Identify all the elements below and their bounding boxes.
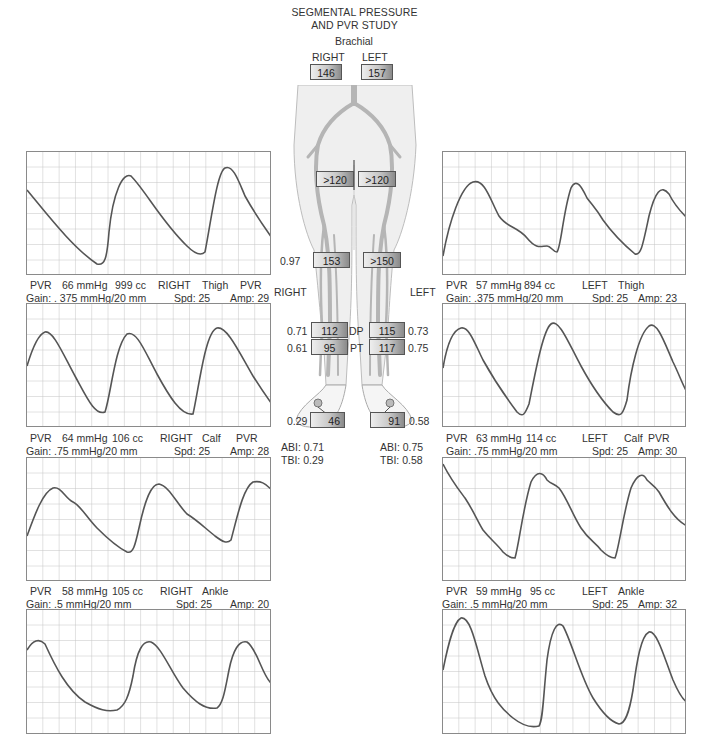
pvr-panel-left-calf	[442, 303, 686, 427]
pvr-panel-left-ankle	[442, 457, 686, 581]
dp-right-pressure: 112	[311, 322, 348, 338]
high-thigh-left-pressure: >120	[358, 171, 396, 187]
toe-left-pressure: 91	[370, 412, 405, 428]
toe-left-index: 0.58	[409, 415, 429, 427]
pt-right-pressure: 95	[311, 339, 348, 355]
toe-right-index: 0.29	[287, 415, 307, 427]
pt-left-pressure: 117	[369, 339, 405, 355]
left-tbi: TBI: 0.58	[380, 454, 423, 466]
pvr-panel-right-foot	[26, 609, 271, 734]
pvr-panel-right-calf	[26, 303, 271, 427]
toe-right-pressure: 46	[310, 412, 345, 428]
left-abi: ABI: 0.75	[380, 441, 423, 453]
pvr-panel-right-ankle	[26, 457, 271, 581]
report-title-line1: SEGMENTAL PRESSURE	[0, 6, 709, 19]
right-tbi: TBI: 0.29	[281, 454, 324, 466]
left-toe-cuff-icon	[386, 399, 394, 407]
pvr-panel-left-foot	[442, 609, 686, 734]
pvr-panel-left-thigh	[442, 151, 686, 275]
right-abi: ABI: 0.71	[281, 441, 324, 453]
dp-left-pressure: 115	[369, 322, 405, 338]
above-knee-right-pressure: 153	[313, 252, 350, 268]
right-side-label: RIGHT	[274, 286, 307, 298]
pt-left-index: 0.75	[408, 342, 428, 354]
right-toe-cuff-icon	[314, 399, 322, 407]
brachial-right-label: RIGHT	[312, 51, 345, 63]
above-knee-right-index: 0.97	[280, 255, 300, 267]
dp-label: DP	[349, 325, 364, 337]
pt-right-index: 0.61	[287, 342, 307, 354]
brachial-label: Brachial	[335, 35, 373, 47]
above-knee-left-pressure: >150	[363, 252, 401, 268]
brachial-left-label: LEFT	[362, 51, 388, 63]
pvr-panel-right-thigh	[26, 151, 271, 275]
dp-right-index: 0.71	[287, 325, 307, 337]
brachial-left-pressure: 157	[361, 64, 393, 80]
pt-label: PT	[350, 342, 363, 354]
dp-left-index: 0.73	[408, 325, 428, 337]
high-thigh-right-pressure: >120	[316, 171, 354, 187]
brachial-right-pressure: 146	[310, 64, 342, 80]
report-title-line2: AND PVR STUDY	[0, 19, 709, 32]
left-side-label: LEFT	[410, 286, 436, 298]
